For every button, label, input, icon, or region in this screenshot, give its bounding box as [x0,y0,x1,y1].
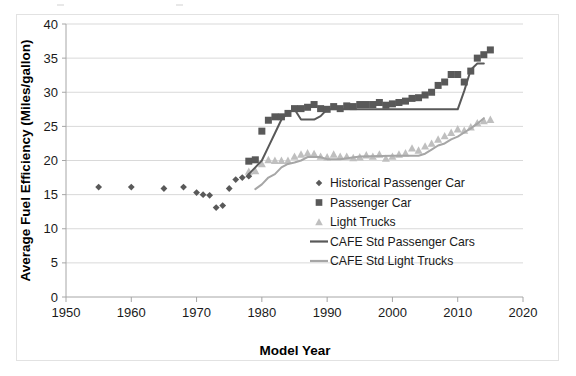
point-historical-passenger-car-1974 [219,202,226,209]
point-passenger-car-2004 [415,94,422,101]
point-historical-passenger-car-1968 [180,184,187,191]
point-light-trucks-1988 [310,150,318,157]
point-historical-passenger-car-1977 [239,174,246,181]
x-axis-title: Model Year [259,343,331,358]
x-tick-label-2010: 2010 [443,305,472,320]
y-axis-title: Average Fuel Efficiency (Miles/gallon) [18,40,33,282]
point-light-trucks-1986 [297,150,305,157]
x-tick-label-2000: 2000 [378,305,407,320]
x-tick-label-1980: 1980 [247,305,276,320]
point-passenger-car-2008 [441,79,448,86]
point-passenger-car-1980 [258,128,265,135]
point-passenger-car-1981 [265,117,272,124]
point-passenger-car-2015 [487,46,494,53]
x-tick-label-1970: 1970 [182,305,211,320]
series-passenger-car [245,46,494,164]
point-passenger-car-1984 [284,110,291,117]
y-tick-label-25: 25 [44,119,58,134]
point-historical-passenger-car-1960 [128,184,135,191]
point-passenger-car-1992 [337,105,344,112]
series-historical-passenger-car [95,173,252,211]
x-tick-label-1950: 1950 [52,305,81,320]
point-passenger-car-2006 [428,89,435,96]
y-tick-label-30: 30 [44,85,58,100]
y-tick-label-5: 5 [51,255,58,270]
point-passenger-car-1994 [350,103,357,110]
point-passenger-car-1990 [324,106,331,113]
point-passenger-car-2010 [454,71,461,78]
point-light-trucks-1996 [362,151,370,158]
point-passenger-car-1993 [343,102,350,109]
y-tick-label-15: 15 [44,187,58,202]
point-light-trucks-2006 [428,139,436,146]
point-light-trucks-2003 [408,144,416,151]
point-passenger-car-1991 [330,103,337,110]
point-passenger-car-2002 [402,98,409,105]
point-light-trucks-1981 [264,156,272,163]
x-tick-label-2020: 2020 [509,305,538,320]
point-historical-passenger-car-1965 [161,185,168,192]
point-historical-passenger-car-1975 [226,185,233,192]
point-passenger-car-2003 [409,95,416,102]
fuel-efficiency-chart: 0510152025303540 19501960197019801990200… [0,0,576,376]
point-passenger-car-1983 [278,113,285,120]
point-historical-passenger-car-1973 [213,204,220,211]
y-tick-labels: 0510152025303540 [44,17,58,305]
point-passenger-car-1979 [252,156,259,163]
legend-item-cafe-std-passenger-cars[interactable]: CAFE Std Passenger Cars [310,235,475,249]
point-passenger-car-1978 [245,158,252,165]
point-passenger-car-1988 [311,101,318,108]
x-tick-label-1960: 1960 [117,305,146,320]
chart-legend: Historical Passenger CarPassenger CarLig… [310,176,475,268]
point-passenger-car-2011 [461,79,468,86]
point-passenger-car-1996 [363,101,370,108]
point-passenger-car-1986 [298,105,305,112]
point-light-trucks-1985 [291,152,299,159]
point-historical-passenger-car-1955 [95,184,102,191]
point-passenger-car-1998 [376,99,383,106]
legend-label-cafe-std-passenger-cars: CAFE Std Passenger Cars [330,235,475,249]
legend-label-cafe-std-light-trucks: CAFE Std Light Trucks [330,254,453,268]
legend-label-historical-passenger-car: Historical Passenger Car [330,176,465,190]
legend-swatch-light-trucks [315,218,323,225]
point-passenger-car-1989 [317,105,324,112]
point-passenger-car-2001 [395,99,402,106]
point-light-trucks-2004 [415,146,423,153]
x-tick-label-1990: 1990 [313,305,342,320]
point-light-trucks-1987 [304,149,312,156]
point-light-trucks-2015 [486,116,494,123]
point-passenger-car-2007 [435,82,442,89]
point-light-trucks-1991 [330,150,338,157]
legend-item-light-trucks[interactable]: Light Trucks [315,215,396,229]
point-passenger-car-2013 [474,55,481,62]
point-passenger-car-1985 [291,105,298,112]
legend-item-passenger-car[interactable]: Passenger Car [316,196,412,210]
point-passenger-car-2000 [389,100,396,107]
gridlines [66,24,523,263]
point-light-trucks-2005 [421,142,429,149]
point-passenger-car-1987 [304,104,311,111]
legend-item-cafe-std-light-trucks[interactable]: CAFE Std Light Trucks [310,254,453,268]
chart-figure: 0510152025303540 19501960197019801990200… [0,0,576,376]
y-tick-label-35: 35 [44,51,58,66]
y-tick-label-10: 10 [44,221,58,236]
point-historical-passenger-car-1976 [232,176,239,183]
legend-swatch-historical-passenger-car [316,180,322,186]
point-passenger-car-1999 [382,102,389,109]
legend-label-light-trucks: Light Trucks [330,215,396,229]
point-passenger-car-2014 [480,51,487,58]
legend-item-historical-passenger-car[interactable]: Historical Passenger Car [316,176,465,190]
point-passenger-car-1997 [369,101,376,108]
scan-artifacts [57,4,183,6]
point-historical-passenger-car-1971 [200,191,207,198]
legend-swatch-passenger-car [316,199,323,206]
point-passenger-car-1982 [271,113,278,120]
point-passenger-car-1995 [356,101,363,108]
y-tick-label-0: 0 [51,290,58,305]
point-passenger-car-2009 [448,71,455,78]
point-passenger-car-2005 [422,91,429,98]
x-tick-labels: 19501960197019801990200020102020 [52,305,538,320]
point-passenger-car-2012 [467,68,474,75]
legend-label-passenger-car: Passenger Car [330,196,411,210]
y-tick-label-20: 20 [44,153,58,168]
